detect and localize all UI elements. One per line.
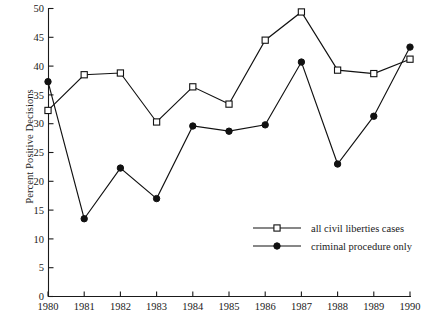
data-point-marker [153,195,159,201]
data-point-marker [45,107,51,113]
y-tick-label: 25 [34,147,45,158]
data-point-marker [81,72,87,78]
x-tick-label: 1985 [219,301,240,312]
data-point-marker [334,161,340,167]
legend-marker-filled-circle [274,243,280,249]
data-point-marker [226,101,232,107]
series-1 [45,9,413,125]
x-tick-label: 1980 [38,301,59,312]
data-point-marker [262,122,268,128]
x-tick-label: 1987 [291,301,312,312]
x-tick-label: 1989 [363,301,384,312]
x-tick-label: 1986 [255,301,276,312]
data-point-marker [81,216,87,222]
data-point-marker [190,123,196,129]
y-tick-label: 30 [34,118,45,129]
axis-lines [48,8,411,297]
legend-label: all civil liberties cases [311,223,404,234]
data-point-marker [226,128,232,134]
data-point-marker [154,119,160,125]
y-tick-label: 20 [34,176,45,187]
data-point-marker [117,70,123,76]
data-point-marker [190,84,196,90]
chart-legend: all civil liberties casescriminal proced… [253,223,413,252]
legend-item: all civil liberties cases [253,223,404,234]
series-group [45,9,413,222]
data-point-marker [117,165,123,171]
y-tick-label: 15 [34,205,45,216]
plot-area: 05101520253035404550 1980198119821983198… [0,0,426,325]
y-tick-label: 35 [34,90,45,101]
x-tick-label: 1990 [400,301,421,312]
x-tick-label: 1988 [327,301,348,312]
legend-marker-open-square [274,225,280,231]
y-tick-label: 10 [34,234,45,245]
y-tick-label: 40 [34,61,45,72]
data-point-marker [298,9,304,15]
series-2 [45,44,413,222]
data-point-marker [298,59,304,65]
x-tick-label: 1981 [74,301,95,312]
y-tick-label: 5 [39,262,44,273]
y-tick-label: 50 [34,3,45,14]
data-point-marker [262,37,268,43]
line-chart: Percent Positive Decisions 0510152025303… [0,0,426,325]
data-point-marker [335,67,341,73]
data-point-marker [407,56,413,62]
x-tick-group: 1980198119821983198419851986198719881989… [38,292,421,313]
y-tick-group: 05101520253035404550 [34,3,54,302]
data-point-marker [371,70,377,76]
y-tick-label: 45 [34,32,45,43]
x-tick-label: 1982 [110,301,131,312]
data-point-marker [45,78,51,84]
legend-item: criminal procedure only [253,241,413,252]
x-tick-label: 1984 [182,301,204,312]
data-point-marker [407,44,413,50]
legend-label: criminal procedure only [311,241,413,252]
data-point-marker [371,113,377,119]
x-tick-label: 1983 [146,301,167,312]
